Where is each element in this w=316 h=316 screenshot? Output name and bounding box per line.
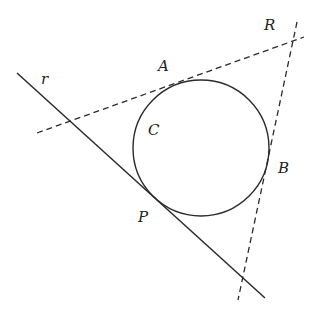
label-b: B [277,159,289,177]
label-a: A [156,57,169,75]
circle-c [133,80,269,216]
label-big-r: R [263,16,275,34]
label-r: r [41,70,49,88]
label-p: P [137,208,149,226]
tangent-line-a [37,37,304,133]
label-c: C [148,121,160,139]
line-r [17,73,265,298]
geometry-diagram: r A R C B P [0,0,316,316]
